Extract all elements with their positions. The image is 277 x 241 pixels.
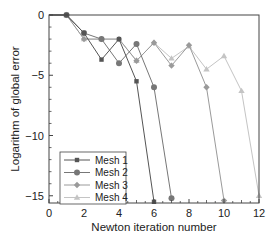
legend-label: Mesh 1 xyxy=(95,155,128,166)
x-tick-label: 10 xyxy=(218,207,230,219)
legend: Mesh 1Mesh 2Mesh 3Mesh 4 xyxy=(60,152,128,204)
y-tick-label: −10 xyxy=(25,130,44,142)
x-tick-label: 8 xyxy=(186,207,192,219)
legend-label: Mesh 2 xyxy=(95,167,128,178)
convergence-chart: 0246810120−5−10−15 Newton iteration numb… xyxy=(0,0,277,241)
marker-triangle xyxy=(238,88,244,93)
marker-triangle xyxy=(221,53,227,58)
x-tick-label: 4 xyxy=(116,207,122,219)
y-tick-label: −5 xyxy=(31,69,44,81)
x-tick-label: 12 xyxy=(253,207,265,219)
x-tick-label: 2 xyxy=(81,207,87,219)
y-tick-label: 0 xyxy=(38,9,44,21)
marker-circle xyxy=(74,170,80,176)
marker-circle xyxy=(116,60,122,66)
marker-circle xyxy=(151,84,157,90)
legend-label: Mesh 3 xyxy=(95,180,128,191)
y-axis-label: Logarithm of global error xyxy=(9,46,21,171)
x-axis-label: Newton iteration number xyxy=(91,221,216,233)
marker-circle xyxy=(99,36,105,42)
x-tick-label: 0 xyxy=(46,207,52,219)
y-tick-label: −15 xyxy=(25,190,44,202)
marker-diamond xyxy=(203,84,209,90)
x-tick-label: 6 xyxy=(151,207,157,219)
marker-square xyxy=(82,31,86,35)
marker-square xyxy=(75,158,79,162)
legend-label: Mesh 4 xyxy=(95,192,128,203)
marker-square xyxy=(134,79,138,83)
marker-square xyxy=(99,57,103,61)
marker-square xyxy=(117,37,121,41)
marker-circle xyxy=(134,41,140,47)
